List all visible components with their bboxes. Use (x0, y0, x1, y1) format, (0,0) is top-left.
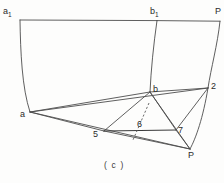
edge-five-seven (104, 130, 176, 131)
vertex-label-a1: a1 (3, 7, 12, 18)
vertex-label-b1: b1 (150, 7, 159, 18)
edge-five-b (104, 92, 150, 131)
edge-a-two (30, 88, 208, 112)
edge-ptop-two-curve (208, 21, 220, 88)
figure-caption: ( c ) (104, 160, 125, 170)
figure-container: a1 b1 P a b 2 5 6 7 P ( c ) (0, 0, 224, 183)
vertex-label-7: 7 (178, 126, 183, 135)
edge-two-pbottom-curve (190, 88, 208, 149)
vertex-label-b: b (153, 85, 158, 94)
vertex-label-p-top: P (215, 7, 221, 18)
edge-a1-b1 (20, 20, 157, 21)
vertex-label-2: 2 (211, 82, 216, 91)
edge-a-b (30, 92, 150, 112)
vertex-label-6: 6 (137, 120, 142, 129)
vertex-label-5: 5 (93, 130, 98, 139)
edge-b1-b-curve (150, 21, 157, 92)
vertex-label-a: a (20, 110, 25, 119)
vertex-label-p-bottom: P (188, 151, 194, 160)
edge-two-seven (176, 88, 208, 130)
edge-b1-ptop (157, 21, 220, 22)
edge-a1-a-curve (20, 20, 30, 112)
edge-b-two (150, 88, 208, 92)
